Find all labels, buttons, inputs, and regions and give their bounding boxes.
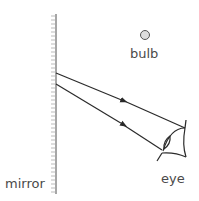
light-rays [56, 73, 185, 150]
bulb-label: bulb [130, 47, 158, 60]
mirror [51, 14, 56, 194]
mirror-label: mirror [5, 177, 45, 190]
optics-diagram: bulb eye mirror [0, 0, 199, 201]
eye-label: eye [161, 172, 185, 185]
bulb-icon [141, 31, 150, 40]
